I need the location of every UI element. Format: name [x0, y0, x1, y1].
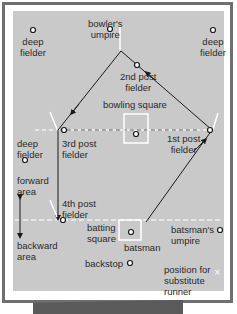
label-batsman: batsman — [124, 242, 160, 253]
label-backward-area: backwardarea — [17, 240, 58, 262]
batsman-marker — [129, 230, 134, 235]
first-post-marker — [208, 128, 213, 133]
label-deep-fielder-tl: deepfielder — [20, 36, 46, 58]
substitute-marker: × — [214, 268, 221, 277]
label-first-post: 1st postfielder — [167, 133, 200, 155]
backstop-marker — [128, 261, 133, 266]
label-second-post: 2nd postfielder — [120, 71, 156, 93]
second-post-marker — [135, 63, 140, 68]
label-third-post: 3rd postfielder — [62, 138, 96, 160]
batsmans-umpire-marker — [218, 228, 223, 233]
post-3-mark — [50, 112, 57, 129]
label-substitute-runner: position forsubstituterunner — [164, 264, 210, 297]
post-1-mark — [213, 113, 218, 129]
label-fourth-post: 4th postfielder — [62, 198, 96, 220]
post-4-mark — [50, 200, 57, 217]
label-deep-fielder-tr: deepfielder — [200, 36, 226, 58]
label-bowling-square: bowling square — [103, 99, 167, 110]
label-deep-fielder-l: deepfielder — [17, 138, 43, 160]
label-batting-square: battingsquare — [87, 222, 116, 244]
track-3rd — [58, 51, 121, 130]
third-post-marker — [62, 128, 67, 133]
label-bowlers-umpire: bowler'sumpire — [88, 18, 123, 40]
label-batsmans-umpire: batsman'sumpire — [171, 224, 214, 246]
label-forward-area: forwardarea — [17, 175, 49, 197]
deep-fielder-tr-marker — [211, 28, 216, 33]
label-backstop: backstop — [85, 258, 123, 269]
bowler-marker — [134, 132, 139, 137]
deep-fielder-tl-marker — [31, 28, 36, 33]
bowling-square — [124, 114, 148, 143]
